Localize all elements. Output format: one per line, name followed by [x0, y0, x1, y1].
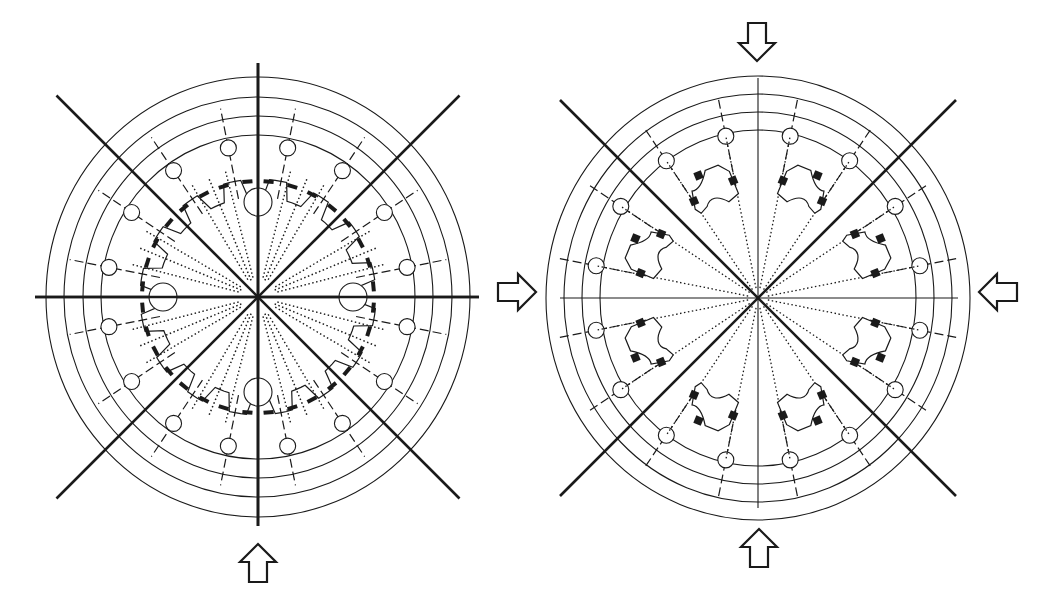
bolt-hole [280, 140, 296, 156]
bolt-hole [220, 438, 236, 454]
clamp-pad [358, 239, 363, 248]
clamp-pad [630, 233, 640, 243]
dotted-radial [596, 300, 748, 330]
clamp-pad [373, 281, 374, 291]
segment-outline [683, 381, 740, 434]
bolt-hole [220, 140, 236, 156]
clamp-pad [200, 397, 209, 402]
dotted-radial [146, 231, 241, 287]
diagram-canvas [0, 0, 1041, 596]
clamp-pad [288, 185, 298, 188]
clamp-pad [142, 303, 143, 313]
right-diagram [546, 76, 970, 520]
clamp-pad [328, 383, 336, 389]
clamp-pad [264, 412, 274, 413]
clamp-pad [242, 181, 252, 182]
arrow-up-icon [240, 544, 276, 582]
clamp-pad [358, 346, 363, 355]
bolt-hole [399, 319, 415, 335]
clamp-segment [619, 220, 676, 283]
bolt-hole [280, 438, 296, 454]
bolt-hole [166, 163, 182, 179]
bolt-hole [376, 373, 392, 389]
arrow-down-icon [739, 23, 775, 61]
arrow-left-icon [979, 274, 1017, 310]
dotted-radial [225, 171, 253, 277]
dotted-radial [192, 314, 248, 409]
clamp-pad [146, 327, 149, 337]
clamp-pad [693, 170, 703, 180]
clamp-pad [328, 205, 336, 211]
clamp-pad [146, 258, 149, 268]
dotted-radial [263, 316, 291, 422]
clamp-pad [307, 192, 316, 197]
dotted-radial [275, 307, 370, 363]
segment-outline [776, 162, 833, 215]
clamp-segment [772, 159, 835, 216]
dotted-radial [768, 266, 920, 296]
clamp-pad [367, 258, 370, 268]
segment-outline [841, 223, 894, 280]
bolt-hole [101, 259, 117, 275]
dotted-radial [275, 304, 377, 346]
clamp-pad [288, 406, 298, 409]
clamp-pad [219, 406, 229, 409]
dotted-radial [209, 179, 251, 281]
dotted-radial [768, 300, 920, 330]
clamp-pad [219, 185, 229, 188]
clamp-pad [153, 239, 158, 248]
dotted-radial [140, 304, 242, 346]
clamp-segment [680, 380, 743, 437]
clamp-pad [344, 367, 350, 375]
arrow-up-icon [741, 529, 777, 567]
segment-outline [776, 381, 833, 434]
clamp-segment [772, 380, 835, 437]
clamp-pad [812, 170, 822, 180]
arrow-right-icon [498, 274, 536, 310]
clamp-pad [264, 181, 274, 182]
segment-outline [841, 316, 894, 373]
clamp-pad [875, 352, 885, 362]
dotted-radial [275, 248, 377, 290]
dotted-radial [268, 185, 324, 280]
dotted-radial [209, 314, 251, 416]
clamp-pad [142, 281, 143, 291]
clamp-pad [180, 383, 188, 389]
bolt-hole [334, 163, 350, 179]
bolt-hole [334, 415, 350, 431]
dotted-radial [132, 302, 238, 330]
clamp-segment [840, 312, 897, 375]
clamp-pad [344, 219, 350, 227]
clamp-pad [180, 205, 188, 211]
clamp-segment [680, 159, 743, 216]
clamp-pad [630, 352, 640, 362]
bolt-hole [101, 319, 117, 335]
clamp-pad [367, 327, 370, 337]
segment-outline [622, 223, 675, 280]
segment-outline [622, 316, 675, 373]
clamp-pad [693, 415, 703, 425]
bolt-hole [124, 373, 140, 389]
clamp-segment [619, 312, 676, 375]
clamp-pad [242, 412, 252, 413]
segment-outline [683, 162, 740, 215]
clamp-pad [812, 415, 822, 425]
bolt-hole [166, 415, 182, 431]
bolt-hole [376, 205, 392, 221]
clamp-segment [840, 220, 897, 283]
clamp-pad [166, 219, 172, 227]
dotted-radial [265, 314, 307, 416]
bolt-hole [399, 259, 415, 275]
dotted-radial [265, 179, 307, 281]
dotted-radial [596, 266, 748, 296]
dotted-radial [277, 264, 383, 292]
clamp-pad [875, 233, 885, 243]
clamp-pad [166, 367, 172, 375]
dotted-radial [140, 248, 242, 290]
left-diagram [35, 63, 479, 526]
clamp-pad [373, 303, 374, 313]
clamp-pad [200, 192, 209, 197]
clamp-pad [307, 397, 316, 402]
clamp-pad [153, 346, 158, 355]
bolt-hole [124, 205, 140, 221]
